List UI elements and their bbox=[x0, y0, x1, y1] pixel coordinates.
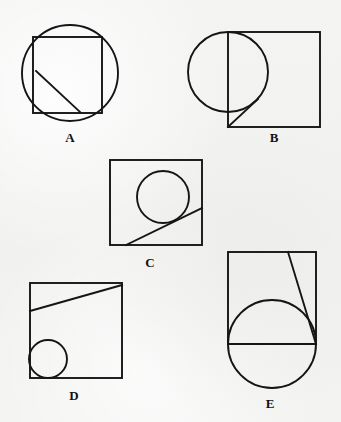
diagonal-e bbox=[288, 252, 316, 344]
square-b bbox=[228, 32, 320, 127]
figure-e bbox=[228, 252, 316, 388]
figure-label-e: E bbox=[260, 397, 280, 410]
figure-label-d: D bbox=[64, 389, 84, 402]
figure-label-c: C bbox=[140, 256, 160, 269]
geometry-figure-canvas bbox=[0, 0, 341, 422]
figure-c bbox=[110, 160, 202, 245]
circle-d bbox=[29, 340, 67, 378]
diagonal-d bbox=[30, 285, 122, 311]
figure-label-b: B bbox=[264, 131, 284, 144]
diagonal-c bbox=[126, 208, 202, 245]
figure-b bbox=[188, 32, 320, 127]
circle-a bbox=[22, 25, 118, 121]
figure-label-a: A bbox=[60, 131, 80, 144]
figure-d bbox=[29, 283, 122, 378]
diagonal-a bbox=[36, 71, 80, 112]
circle-c bbox=[137, 171, 189, 223]
diagonal-b bbox=[228, 99, 258, 127]
figure-a bbox=[22, 25, 118, 121]
shape-layer bbox=[22, 25, 320, 388]
